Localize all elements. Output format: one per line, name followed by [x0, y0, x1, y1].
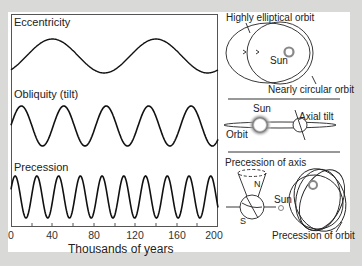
obliquity-sun-label: Sun [253, 103, 271, 114]
x-axis-label: Thousands of years [68, 242, 173, 256]
north-label: N [254, 179, 261, 189]
precession-sun-label: Sun [274, 194, 292, 205]
highly-elliptical-orbit-label: Highly elliptical orbit [226, 12, 314, 23]
x-tick: 160 [168, 229, 186, 241]
sun-icon [279, 206, 284, 211]
eccentricity-label: Eccentricity [14, 16, 70, 28]
precession-of-axis-label: Precession of axis [225, 157, 306, 168]
eccentricity-curve [11, 39, 218, 73]
precession-curve [11, 176, 218, 218]
x-tick: 40 [46, 229, 58, 241]
nearly-circular-orbit-label: Nearly circular orbit [268, 84, 354, 95]
precession-label: Precession [14, 161, 68, 173]
sun-icon [309, 181, 317, 189]
x-tick: 80 [88, 229, 100, 241]
x-tick: 120 [126, 229, 144, 241]
south-label: S [240, 216, 246, 226]
precession-of-orbit-label: Precession of orbit [272, 230, 355, 241]
x-tick: 0 [8, 229, 14, 241]
sun-glow-icon [248, 113, 272, 137]
x-axis-ticks [32, 223, 197, 227]
cycle-waves [0, 0, 362, 266]
eccentricity-diagram [226, 22, 316, 84]
obliquity-label: Obliquity (tilt) [14, 88, 78, 100]
obliquity-curve [11, 106, 218, 146]
orbit-label: Orbit [226, 129, 248, 140]
axial-tilt-label: Axial tilt [299, 111, 333, 122]
x-tick: 200 [205, 229, 223, 241]
eccentricity-sun-label: Sun [270, 55, 288, 66]
